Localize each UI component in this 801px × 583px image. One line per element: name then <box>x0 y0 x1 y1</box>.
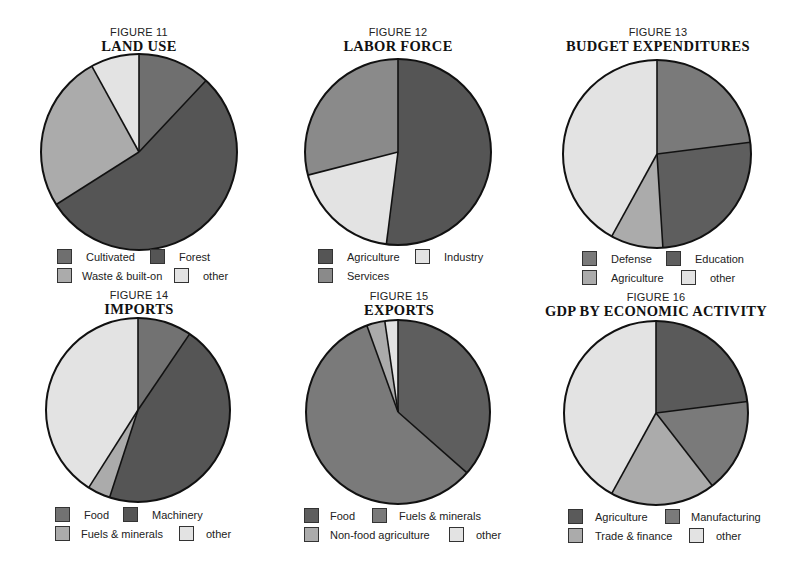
legend-swatch <box>665 509 680 524</box>
legend-swatch <box>568 528 583 543</box>
pie-chart <box>0 0 801 583</box>
legend-label: Manufacturing <box>691 511 761 523</box>
legend-item-agriculture: Agriculture <box>568 509 648 524</box>
pie-slice-agriculture <box>656 321 747 413</box>
legend-swatch <box>568 509 583 524</box>
legend-label: other <box>716 530 741 542</box>
legend-label: Trade & finance <box>595 530 672 542</box>
legend-label: Agriculture <box>595 511 648 523</box>
legend-item-other: other <box>689 528 741 543</box>
legend-swatch <box>689 528 704 543</box>
legend-item-trade-finance: Trade & finance <box>568 528 672 543</box>
legend-item-manufacturing: Manufacturing <box>665 509 761 524</box>
